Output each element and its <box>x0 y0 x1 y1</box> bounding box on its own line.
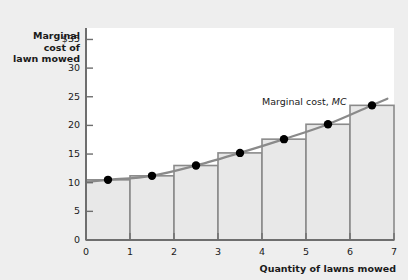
x-tick-label: 5 <box>296 246 316 257</box>
y-tick-label: 15 <box>46 148 80 159</box>
data-point <box>148 172 156 180</box>
x-tick-label: 1 <box>120 246 140 257</box>
y-tick-label: 25 <box>46 91 80 102</box>
y-tick-label: 5 <box>46 205 80 216</box>
x-tick-label: 7 <box>384 246 404 257</box>
x-axis-title: Quantity of lawns mowed <box>260 263 396 274</box>
y-tick-label: 0 <box>46 234 80 245</box>
bar <box>174 166 218 240</box>
data-point <box>280 135 288 143</box>
data-point <box>236 149 244 157</box>
y-tick-label: $35 <box>46 33 80 44</box>
data-point <box>324 120 332 128</box>
curve-label-symbol: MC <box>332 96 347 107</box>
x-tick-label: 3 <box>208 246 228 257</box>
data-point <box>104 176 112 184</box>
bar <box>218 153 262 240</box>
bar <box>130 176 174 240</box>
bar <box>86 180 130 240</box>
x-tick-label: 0 <box>76 246 96 257</box>
x-tick-label: 6 <box>340 246 360 257</box>
bar <box>350 105 394 240</box>
bar <box>262 139 306 240</box>
y-tick-label: 10 <box>46 177 80 188</box>
y-tick-label: 30 <box>46 62 80 73</box>
x-tick-label: 2 <box>164 246 184 257</box>
data-point <box>192 161 200 169</box>
curve-label: Marginal cost, MC <box>262 96 347 107</box>
y-tick-label: 20 <box>46 119 80 130</box>
curve-label-prefix: Marginal cost, <box>262 96 332 107</box>
x-tick-label: 4 <box>252 246 272 257</box>
bar <box>306 124 350 240</box>
data-point <box>368 101 376 109</box>
